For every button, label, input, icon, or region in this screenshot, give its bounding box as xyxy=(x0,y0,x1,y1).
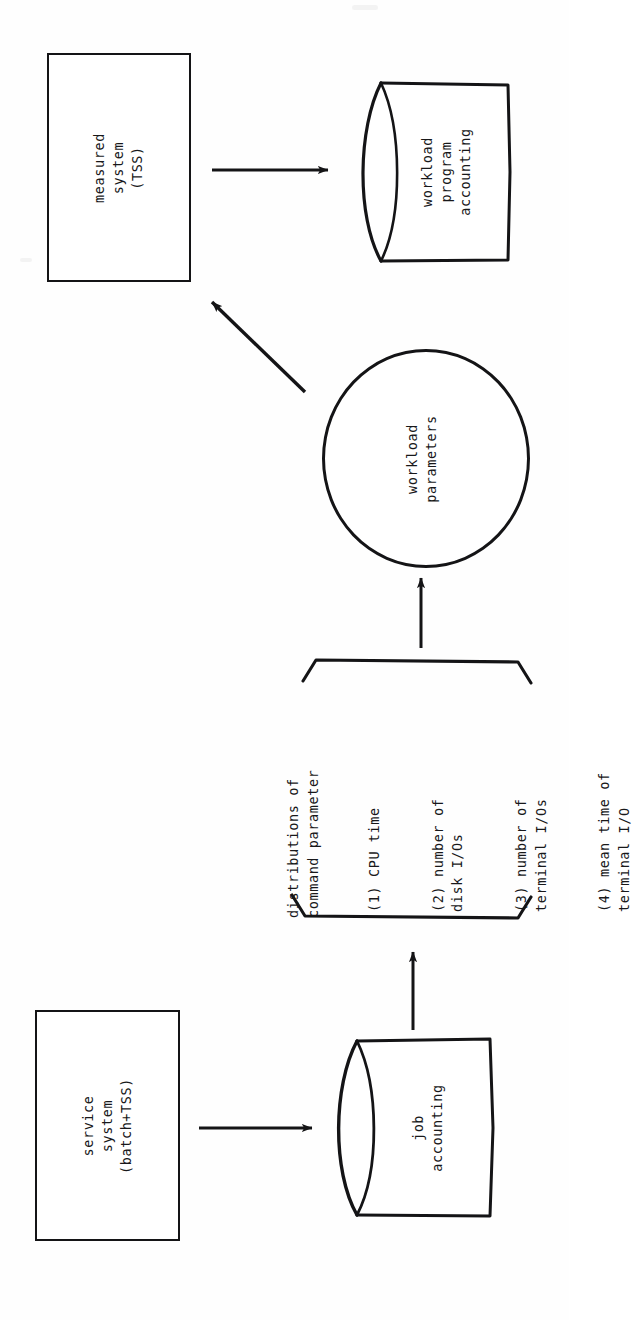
node-job-accounting-label: job accounting xyxy=(409,1084,447,1171)
node-measured-system: measured system (TSS) xyxy=(47,53,191,282)
node-service-system-label: service system (batch+TSS) xyxy=(79,1077,136,1173)
list-item-text: CPU time xyxy=(366,807,382,877)
list-item-number: (1) xyxy=(366,886,382,912)
scan-artifact xyxy=(20,258,32,262)
node-workload-program-accounting-label: workload program accounting xyxy=(418,128,475,215)
node-workload-program-accounting: workload program accounting xyxy=(350,80,512,264)
list-item: (1) CPU time xyxy=(365,664,385,912)
edge-workload-parameters-to-measured-system xyxy=(212,302,305,392)
node-workload-parameters-label: workload parameters xyxy=(403,415,441,502)
list-item-number: (2) xyxy=(430,886,446,912)
parameter-list-items: (1) CPU time (2) number of disk I/Os (3)… xyxy=(326,664,636,912)
list-item: (3) number of terminal I/Os xyxy=(512,664,551,912)
node-workload-parameters: workload parameters xyxy=(322,349,530,568)
node-measured-system-label: measured system (TSS) xyxy=(90,133,147,203)
parameter-list: (1) CPU time (2) number of disk I/Os (3)… xyxy=(288,664,636,912)
scan-artifact xyxy=(352,5,378,10)
node-job-accounting: job accounting xyxy=(324,1036,496,1220)
list-item-number: (4) xyxy=(596,886,612,912)
list-item-number: (3) xyxy=(513,886,529,912)
list-item: (2) number of disk I/Os xyxy=(429,664,468,912)
node-service-system: service system (batch+TSS) xyxy=(35,1010,180,1241)
list-item: (4) mean time of terminal I/O xyxy=(595,664,634,912)
